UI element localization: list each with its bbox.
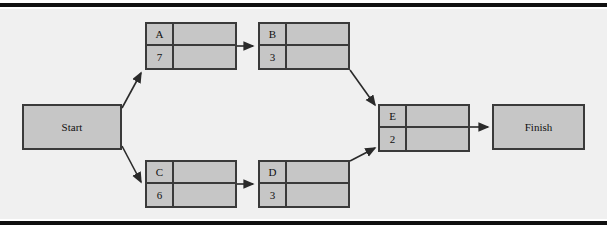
- activity-e-duration-field: [407, 128, 468, 150]
- top-divider-rule: [0, 3, 607, 7]
- activity-e-name: E: [380, 106, 407, 126]
- activity-e-name-row: E: [380, 106, 468, 128]
- network-diagram-page: Start Finish A 7 B 3 C 6: [0, 0, 607, 232]
- node-finish-label: Finish: [525, 121, 553, 133]
- activity-a-duration-row: 7: [147, 46, 235, 68]
- activity-a-name-field: [174, 24, 235, 44]
- activity-c-name-row: C: [147, 162, 235, 184]
- activity-a-duration: 7: [147, 46, 174, 68]
- activity-b-name-field: [287, 24, 348, 44]
- bottom-divider-rule: [0, 221, 607, 225]
- node-activity-a[interactable]: A 7: [145, 22, 237, 70]
- activity-b-duration-row: 3: [260, 46, 348, 68]
- activity-a-name-row: A: [147, 24, 235, 46]
- activity-c-duration-row: 6: [147, 184, 235, 206]
- node-finish[interactable]: Finish: [492, 104, 585, 150]
- activity-a-duration-field: [174, 46, 235, 68]
- activity-c-duration: 6: [147, 184, 174, 206]
- activity-c-name-field: [174, 162, 235, 182]
- activity-d-duration-row: 3: [260, 184, 348, 206]
- activity-d-name-row: D: [260, 162, 348, 184]
- activity-c-duration-field: [174, 184, 235, 206]
- node-activity-d[interactable]: D 3: [258, 160, 350, 208]
- activity-d-name: D: [260, 162, 287, 182]
- activity-e-duration: 2: [380, 128, 407, 150]
- node-activity-b[interactable]: B 3: [258, 22, 350, 70]
- activity-d-duration: 3: [260, 184, 287, 206]
- node-start-label: Start: [62, 121, 83, 133]
- activity-e-duration-row: 2: [380, 128, 468, 150]
- activity-b-name-row: B: [260, 24, 348, 46]
- activity-d-duration-field: [287, 184, 348, 206]
- activity-c-name: C: [147, 162, 174, 182]
- activity-e-name-field: [407, 106, 468, 126]
- activity-b-name: B: [260, 24, 287, 44]
- activity-a-name: A: [147, 24, 174, 44]
- node-activity-e[interactable]: E 2: [378, 104, 470, 152]
- activity-b-duration: 3: [260, 46, 287, 68]
- activity-b-duration-field: [287, 46, 348, 68]
- node-start[interactable]: Start: [22, 104, 122, 150]
- node-activity-c[interactable]: C 6: [145, 160, 237, 208]
- activity-d-name-field: [287, 162, 348, 182]
